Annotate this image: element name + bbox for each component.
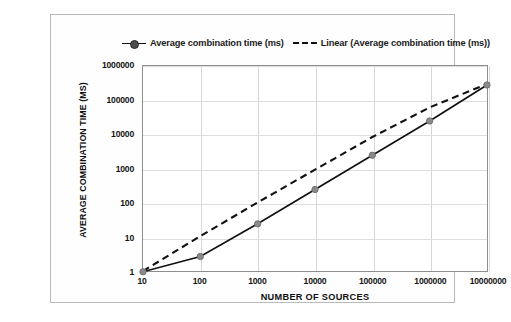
dashed-line-key-icon <box>293 38 317 48</box>
data-point-marker <box>254 221 260 227</box>
plot-area <box>142 65 488 272</box>
x-tick-label: 1000000 <box>414 276 446 286</box>
data-point-marker <box>312 186 318 192</box>
y-tick-label: 10000 <box>111 129 134 139</box>
y-tick-label: 10 <box>125 233 134 243</box>
x-axis-tick-labels: 10100100010000100000100000010000000 <box>142 276 488 290</box>
legend-label-series-1: Average combination time (ms) <box>150 38 284 48</box>
chart-legend: Average combination time (ms) Linear (Av… <box>101 35 511 51</box>
y-tick-label: 1 <box>129 267 134 277</box>
y-axis-tick-labels: 1101001000100001000001000000 <box>51 65 139 272</box>
x-axis-title: NUMBER OF SOURCES <box>142 292 488 302</box>
legend-label-series-2: Linear (Average combination time (ms)) <box>321 38 490 48</box>
vertical-gridline <box>489 66 490 271</box>
average-combination-time-line <box>143 85 487 272</box>
y-tick-label: 100 <box>120 198 134 208</box>
legend-item-average-combination-time[interactable]: Average combination time (ms) <box>122 38 284 48</box>
data-point-marker <box>426 118 432 124</box>
data-point-marker <box>197 253 203 259</box>
x-tick-label: 10 <box>137 276 146 286</box>
legend-item-linear-trendline[interactable]: Linear (Average combination time (ms)) <box>293 38 490 48</box>
linear-trendline <box>143 84 487 271</box>
y-tick-label: 1000000 <box>102 60 134 70</box>
line-marker-key-icon <box>122 38 146 48</box>
y-axis-title: AVERAGE COMBINATION TIME (MS) <box>78 65 88 255</box>
y-tick-label: 100000 <box>107 95 134 105</box>
data-point-markers <box>140 82 490 275</box>
chart-container: Average combination time (ms) Linear (Av… <box>50 14 455 303</box>
x-tick-label: 1000 <box>248 276 266 286</box>
x-tick-label: 100000 <box>359 276 386 286</box>
data-point-marker <box>140 269 146 275</box>
x-tick-label: 10000000 <box>470 276 507 286</box>
x-tick-label: 10000 <box>304 276 327 286</box>
data-point-marker <box>369 152 375 158</box>
y-tick-label: 1000 <box>116 164 134 174</box>
data-series-layer <box>143 66 487 272</box>
data-point-marker <box>484 82 490 88</box>
x-tick-label: 100 <box>193 276 207 286</box>
